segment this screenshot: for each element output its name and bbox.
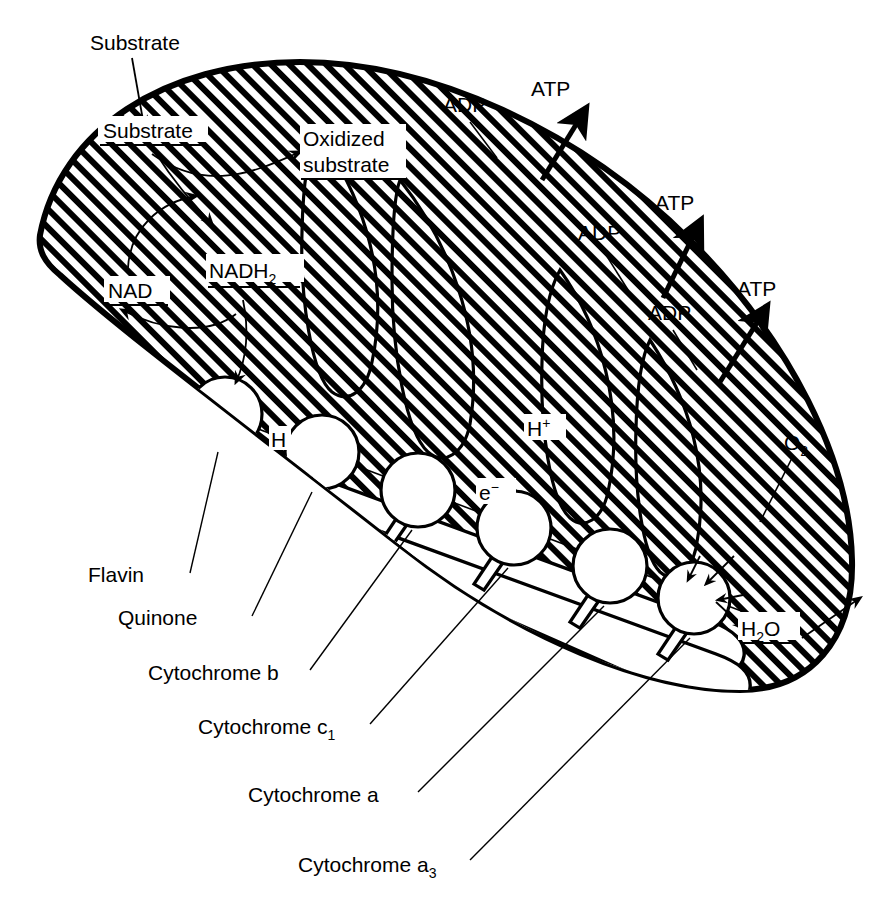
particle-stalk-1	[186, 440, 214, 476]
mitochondrion-diagram: Substrate ATP ATP ATP ADP ADP ADP O2 Sub…	[0, 0, 886, 919]
label-hydrogen: H	[271, 428, 286, 451]
label-adp-1: ADP	[443, 93, 486, 116]
callout-quinone: Quinone	[118, 606, 197, 629]
label-substrate-external: Substrate	[90, 31, 180, 54]
label-oxidized-substrate-group: Oxidized substrate	[300, 124, 406, 179]
leader-cytochrome-c1	[370, 568, 508, 724]
callout-flavin: Flavin	[88, 563, 144, 586]
label-oxidized-line2: substrate	[303, 153, 389, 176]
label-adp-3: ADP	[648, 301, 691, 324]
label-hydrogen-group: H	[269, 426, 291, 451]
label-nad: NAD	[108, 279, 152, 302]
label-nad-group: NAD	[104, 276, 170, 305]
callout-cytochrome-a3: Cytochrome a3	[298, 853, 437, 881]
particle-head-quinone	[285, 415, 359, 489]
label-proton-group: H+	[524, 414, 566, 440]
leader-quinone	[252, 492, 312, 616]
particle-head-cytb	[381, 453, 455, 527]
diagram-canvas: Substrate ATP ATP ATP ADP ADP ADP O2 Sub…	[0, 0, 886, 919]
leader-cytochrome-a	[418, 606, 604, 792]
label-atp-2: ATP	[655, 191, 694, 214]
label-adp-2: ADP	[578, 221, 621, 244]
particle-stalk-2	[282, 478, 310, 514]
label-oxidized-line1: Oxidized	[303, 127, 385, 150]
particle-head-cyta	[573, 529, 647, 603]
callout-cytochrome-a: Cytochrome a	[248, 783, 379, 806]
callout-cytochrome-b: Cytochrome b	[148, 661, 279, 684]
leader-flavin	[190, 452, 218, 573]
label-atp-3: ATP	[737, 277, 776, 300]
particle-head-cyta3	[658, 562, 730, 634]
respiratory-particle-flavin	[186, 377, 262, 476]
label-substrate-internal: Substrate	[103, 119, 193, 142]
leader-cytochrome-b	[310, 530, 412, 670]
label-electron-group: e−	[476, 478, 516, 504]
callout-cytochrome-c1: Cytochrome c1	[198, 715, 336, 743]
particle-head-flavin	[188, 377, 262, 451]
leader-cytochrome-a3	[470, 638, 690, 860]
label-atp-1: ATP	[531, 77, 570, 100]
label-substrate-internal-group: Substrate	[98, 116, 208, 145]
